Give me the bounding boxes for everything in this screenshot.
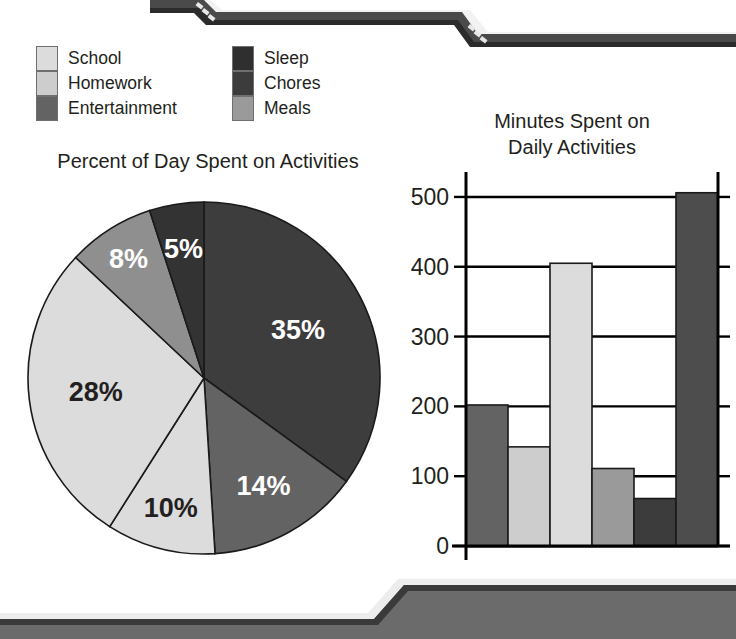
top-banner-shadow	[150, 8, 736, 47]
pie-chart-panel: Percent of Day Spent on Activities 35%14…	[8, 150, 408, 580]
bottom-banner-shadow	[0, 585, 736, 625]
pie-label-meals: 8%	[109, 244, 148, 274]
legend-item-meals: Meals	[232, 96, 320, 121]
chart-legend: School Homework Entertainment Sleep Chor…	[0, 46, 420, 124]
bottom-banner-highlight	[0, 579, 736, 625]
bar-entertainment	[466, 405, 508, 546]
legend-item-chores: Chores	[232, 71, 320, 96]
y-axis-label-200: 200	[411, 393, 449, 419]
legend-swatch-meals	[232, 96, 254, 121]
legend-swatch-sleep	[232, 46, 254, 71]
bar-chart-panel: Minutes Spent on Daily Activities 010020…	[408, 108, 736, 578]
legend-item-sleep: Sleep	[232, 46, 320, 71]
legend-swatch-chores	[232, 71, 254, 96]
pie-label-chores: 5%	[164, 234, 203, 264]
pie-label-entertainment: 14%	[236, 471, 290, 501]
pie-svg: 35%14%10%28%8%5%	[26, 188, 390, 568]
top-banner-bevel-dashes	[196, 2, 488, 43]
legend-label-school: School	[68, 50, 122, 68]
legend-item-homework: Homework	[36, 71, 177, 96]
pie-label-homework: 10%	[144, 493, 198, 523]
bar-chart-title: Minutes Spent on Daily Activities	[408, 108, 736, 161]
bar-school	[550, 263, 592, 546]
infographic-page: School Homework Entertainment Sleep Chor…	[0, 0, 736, 639]
legend-column-left: School Homework Entertainment	[36, 46, 177, 121]
legend-item-entertainment: Entertainment	[36, 96, 177, 121]
bar-chart-title-line1: Minutes Spent on	[408, 108, 736, 134]
pie-chart-graphic: 35%14%10%28%8%5%	[26, 188, 390, 572]
legend-label-homework: Homework	[68, 75, 152, 93]
legend-item-school: School	[36, 46, 177, 71]
pie-chart-title: Percent of Day Spent on Activities	[8, 150, 408, 173]
bar-svg: 0100200300400500	[408, 164, 736, 574]
y-axis-label-500: 500	[411, 184, 449, 210]
top-banner-highlight	[150, 0, 736, 44]
legend-swatch-school	[36, 46, 58, 71]
legend-column-right: Sleep Chores Meals	[232, 46, 320, 121]
pie-label-sleep: 35%	[271, 315, 325, 345]
legend-label-chores: Chores	[264, 75, 320, 93]
y-axis-label-400: 400	[411, 254, 449, 280]
y-axis-label-300: 300	[411, 324, 449, 350]
bottom-banner-fill	[0, 585, 736, 639]
top-banner-dark	[150, 0, 736, 44]
pie-label-school: 28%	[69, 377, 123, 407]
y-axis-label-0: 0	[436, 533, 449, 559]
bar-sleep	[676, 193, 718, 546]
legend-label-entertainment: Entertainment	[68, 100, 177, 118]
y-axis-label-100: 100	[411, 463, 449, 489]
legend-swatch-entertainment	[36, 96, 58, 121]
legend-label-meals: Meals	[264, 100, 311, 118]
bar-chart-graphic: 0100200300400500	[408, 164, 736, 578]
bar-homework	[508, 447, 550, 546]
bar-chart-title-line2: Daily Activities	[408, 134, 736, 160]
bar-meals	[592, 469, 634, 546]
legend-label-sleep: Sleep	[264, 50, 309, 68]
legend-swatch-homework	[36, 71, 58, 96]
bar-chores	[634, 499, 676, 546]
